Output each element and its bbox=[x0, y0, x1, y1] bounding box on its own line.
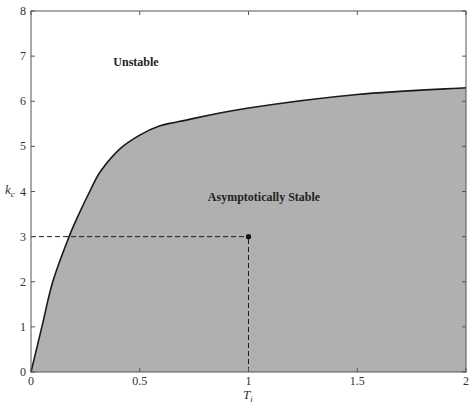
y-tick-label: 2 bbox=[20, 275, 26, 289]
x-axis-label: Ti bbox=[243, 387, 253, 404]
y-tick-labels: 012345678 bbox=[20, 4, 26, 379]
y-tick-label: 8 bbox=[20, 4, 26, 18]
y-tick-label: 6 bbox=[20, 94, 26, 108]
y-tick-label: 1 bbox=[20, 320, 26, 334]
x-tick-label: 0 bbox=[28, 374, 34, 388]
y-tick-label: 3 bbox=[20, 230, 26, 244]
y-tick-label: 0 bbox=[20, 365, 26, 379]
stability-chart: 00.511.52 012345678 Unstable Asymptotica… bbox=[0, 0, 469, 409]
y-axis-label: kc bbox=[5, 182, 15, 199]
y-tick-label: 5 bbox=[20, 139, 26, 153]
y-tick-label: 7 bbox=[20, 49, 26, 63]
x-tick-label: 2 bbox=[463, 374, 469, 388]
unstable-region-label: Unstable bbox=[113, 55, 159, 69]
stable-region-label: Asymptotically Stable bbox=[208, 190, 321, 204]
x-tick-label: 1 bbox=[246, 374, 252, 388]
y-tick-label: 4 bbox=[20, 185, 26, 199]
x-tick-label: 1.5 bbox=[350, 374, 365, 388]
x-tick-label: 0.5 bbox=[132, 374, 147, 388]
x-tick-labels: 00.511.52 bbox=[28, 374, 469, 388]
